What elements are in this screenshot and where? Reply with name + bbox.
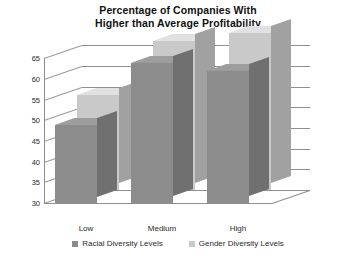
legend-swatch-racial xyxy=(72,241,78,247)
y-axis-tick-label: 40 xyxy=(32,157,40,166)
gridline-depth xyxy=(44,45,82,59)
bar-front-face xyxy=(207,71,249,203)
gridline-depth xyxy=(44,66,82,80)
legend-item-gender: Gender Diversity Levels xyxy=(189,239,284,248)
x-axis-label-high: High xyxy=(230,224,246,233)
y-axis-tick-label: 50 xyxy=(32,116,40,125)
axis-depth-edge xyxy=(272,190,310,204)
y-axis-tick-label: 60 xyxy=(32,75,40,84)
bar-side-face xyxy=(249,57,269,196)
x-axis-label-low: Low xyxy=(79,224,94,233)
bar-side-face xyxy=(173,49,193,196)
x-axis-line xyxy=(44,203,272,204)
bar-medium-racial xyxy=(131,63,173,203)
chart-legend: Racial Diversity Levels Gender Diversity… xyxy=(0,239,356,248)
legend-label-gender: Gender Diversity Levels xyxy=(199,239,284,248)
y-axis-tick-label: 35 xyxy=(32,178,40,187)
y-axis-tick-label: 45 xyxy=(32,137,40,146)
bar-high-racial xyxy=(207,71,249,203)
chart-title: Percentage of Companies With Higher than… xyxy=(0,4,356,30)
bar-side-face xyxy=(271,19,291,183)
legend-label-racial: Racial Diversity Levels xyxy=(82,239,162,248)
y-axis-line xyxy=(44,58,45,203)
chart-container: Percentage of Companies With Higher than… xyxy=(0,0,356,263)
bar-side-face xyxy=(97,111,117,196)
x-axis-label-medium: Medium xyxy=(148,224,176,233)
gridline xyxy=(82,190,310,191)
plot-area: 3035404550556065 LowMediumHigh xyxy=(44,46,310,216)
bar-front-face xyxy=(55,125,97,204)
bar-low-racial xyxy=(55,125,97,204)
bar-front-face xyxy=(131,63,173,203)
y-axis-tick-label: 65 xyxy=(32,54,40,63)
y-axis-tick-label: 55 xyxy=(32,95,40,104)
legend-swatch-gender xyxy=(189,241,195,247)
chart-title-line-1: Percentage of Companies With xyxy=(0,4,356,17)
y-axis-tick-label: 30 xyxy=(32,199,40,208)
legend-item-racial: Racial Diversity Levels xyxy=(72,239,162,248)
chart-title-line-2: Higher than Average Profitability xyxy=(0,17,356,30)
